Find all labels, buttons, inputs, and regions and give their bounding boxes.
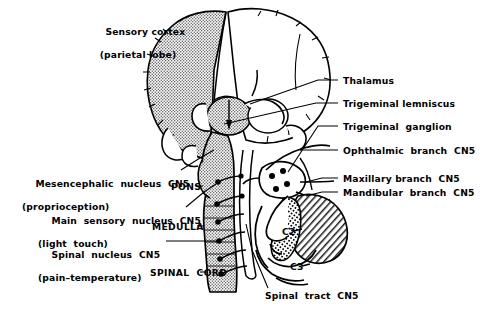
label-spinal-nucleus-line1: Spinal nucleus CN5 — [51, 249, 160, 260]
label-spinal-tract: Spinal tract CN5 — [265, 290, 359, 302]
trigeminal-pathway-figure: Sensory cortex (parietal lobe) Thalamus … — [0, 0, 480, 318]
label-spinal-cord: SPINAL CORD — [150, 267, 227, 279]
label-medulla: MEDULLA — [152, 221, 204, 233]
label-sensory-cortex-line2: (parietal lobe) — [92, 49, 184, 61]
label-ophthalmic-branch: Ophthalmic branch CN5 — [343, 145, 475, 157]
label-maxillary-branch: Maxillary branch CN5 — [343, 173, 460, 185]
label-c2: C2 — [282, 226, 296, 238]
label-thalamus: Thalamus — [343, 75, 394, 87]
label-pons: PONS — [171, 181, 201, 193]
label-spinal-nucleus-line2: (pain–temperature) — [38, 272, 160, 284]
label-trigeminal-ganglion: Trigeminal ganglion — [343, 121, 452, 133]
label-mesencephalic-nucleus-line1: Mesencephalic nucleus CN5 — [35, 178, 189, 189]
label-sensory-cortex: Sensory cortex (parietal lobe) — [92, 14, 184, 83]
label-trigeminal-lemniscus: Trigeminal lemniscus — [343, 98, 455, 110]
label-spinal-nucleus: Spinal nucleus CN5 (pain–temperature) — [38, 237, 160, 306]
label-mandibular-branch: Mandibular branch CN5 — [343, 187, 475, 199]
trigeminal-ganglion-and-branches — [243, 145, 334, 200]
label-c3: C3 — [290, 261, 304, 273]
label-sensory-cortex-line1: Sensory cortex — [105, 26, 185, 37]
